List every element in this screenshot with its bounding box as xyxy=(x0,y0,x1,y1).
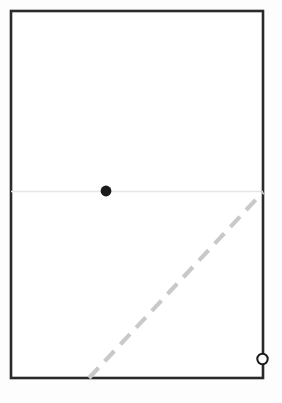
diagram-svg xyxy=(0,0,282,403)
outer-rectangle xyxy=(11,11,263,378)
filled-dot-marker xyxy=(101,186,112,197)
open-circle-marker xyxy=(257,354,267,364)
diagram-canvas xyxy=(0,0,282,403)
